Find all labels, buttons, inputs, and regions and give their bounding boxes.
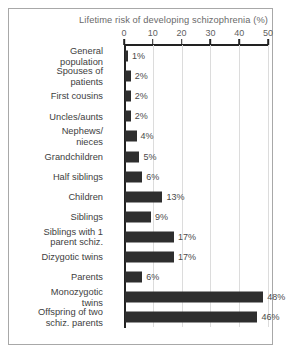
bar [125, 272, 142, 283]
chart-title: Lifetime risk of developing schizophreni… [9, 15, 268, 25]
bar-value-label: 48% [267, 292, 283, 302]
bar [125, 71, 131, 82]
bar-row: 17% [124, 226, 268, 248]
bar-value-label: 17% [178, 252, 196, 262]
bar-row: 4% [124, 125, 268, 147]
category-label: Uncles/aunts [0, 112, 103, 123]
bar-row: 6% [124, 166, 268, 188]
category-label: Nephews/ nieces [0, 126, 103, 147]
category-label: Dizygotic twins [0, 252, 103, 263]
bar [125, 151, 139, 162]
bar-value-label: 6% [146, 272, 159, 282]
bar-row: 5% [124, 146, 268, 168]
bar [125, 292, 263, 303]
bar-row: 13% [124, 186, 268, 208]
bar [125, 211, 151, 222]
category-label: Offspring of two schiz. parents [0, 307, 103, 328]
x-tick-label-0: 0 [121, 28, 126, 38]
category-label: Half siblings [0, 172, 103, 183]
bar-value-label: 4% [141, 131, 154, 141]
category-label: Monozygotic twins [0, 287, 103, 308]
bar-value-label: 5% [143, 152, 156, 162]
category-label: Siblings [0, 212, 103, 223]
bar-value-label: 1% [132, 51, 145, 61]
x-tick-label-30: 30 [205, 28, 215, 38]
bar-row: 2% [124, 85, 268, 107]
bar-value-label: 2% [135, 71, 148, 81]
gridline-50 [268, 45, 269, 327]
bar-value-label: 2% [135, 91, 148, 101]
category-label: Children [0, 192, 103, 203]
x-tick-label-20: 20 [177, 28, 187, 38]
bar-row: 1% [124, 45, 268, 67]
bar-row: 9% [124, 206, 268, 228]
category-label: First cousins [0, 91, 103, 102]
x-tick-label-40: 40 [234, 28, 244, 38]
bar [125, 131, 137, 142]
category-label: Grandchildren [0, 152, 103, 163]
bar [125, 111, 131, 122]
category-label: Spouses of patients [0, 66, 103, 87]
bar-value-label: 2% [135, 111, 148, 121]
bar-row: 2% [124, 65, 268, 87]
bar [125, 312, 257, 323]
bar-value-label: 17% [178, 232, 196, 242]
bar-row: 46% [124, 306, 268, 328]
x-axis-tick-labels: 01020304050 [124, 28, 268, 41]
chart-figure: Lifetime risk of developing schizophreni… [8, 8, 273, 345]
plot-area: 1%2%2%2%4%5%6%13%9%17%17%6%48%46% [124, 45, 268, 327]
bar-row: 48% [124, 286, 268, 308]
bar-row: 17% [124, 246, 268, 268]
bar [125, 252, 174, 263]
bar [125, 231, 174, 242]
bar [125, 171, 142, 182]
bar-value-label: 13% [166, 192, 184, 202]
bar-value-label: 46% [261, 312, 279, 322]
category-label: Siblings with 1 parent schiz. [0, 227, 103, 248]
category-label: Parents [0, 272, 103, 283]
bar-row: 2% [124, 105, 268, 127]
x-tick-label-50: 50 [263, 28, 273, 38]
bar [125, 91, 131, 102]
bar-row: 6% [124, 266, 268, 288]
x-tick-label-10: 10 [148, 28, 158, 38]
bar-value-label: 9% [155, 212, 168, 222]
bar-value-label: 6% [146, 172, 159, 182]
category-label: General population [0, 46, 103, 67]
bar [125, 51, 128, 62]
bar [125, 191, 162, 202]
